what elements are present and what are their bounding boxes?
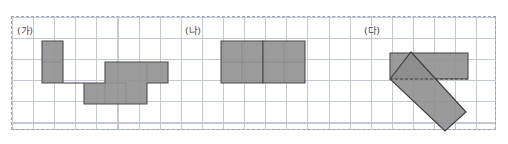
- shape-label-da: (다): [364, 26, 380, 36]
- grid-panel: [11, 16, 496, 130]
- figure-root: (가) (나) (다): [0, 0, 508, 144]
- shape-label-ga: (가): [17, 26, 33, 36]
- grid-lines: [12, 17, 495, 129]
- shape-label-na: (나): [185, 26, 201, 36]
